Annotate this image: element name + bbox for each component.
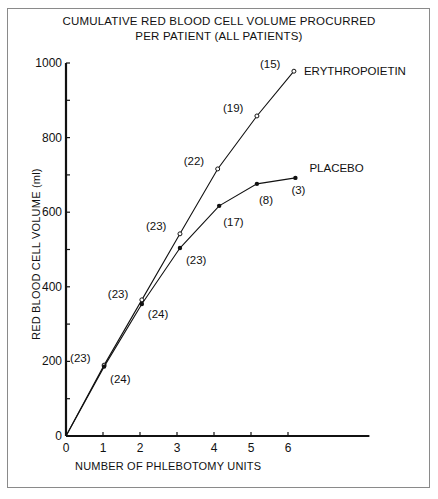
x-axis-title: NUMBER OF PHLEBOTOMY UNITS xyxy=(75,460,261,472)
data-point-marker xyxy=(292,69,296,73)
data-point-marker xyxy=(178,232,182,236)
x-tick-label: 5 xyxy=(248,441,255,455)
sample-size-annotation: (24) xyxy=(148,308,169,320)
x-tick-label: 1 xyxy=(100,441,107,455)
sample-size-annotation: (8) xyxy=(259,194,273,206)
sample-size-annotation: (3) xyxy=(291,184,305,196)
x-tick-label: 2 xyxy=(137,441,144,455)
sample-size-annotation: (23) xyxy=(146,220,167,232)
data-point-marker xyxy=(255,114,259,118)
y-tick-label: 0 xyxy=(55,429,62,443)
series-group: (23)(23)(23)(22)(19)(15)ERYTHROPOIETIN(2… xyxy=(66,58,406,436)
x-tick-label: 3 xyxy=(174,441,181,455)
y-tick-label: 200 xyxy=(42,354,62,368)
data-point-marker xyxy=(216,167,220,171)
sample-size-annotation: (15) xyxy=(260,58,281,70)
y-axis-title: RED BLOOD CELL VOLUME (ml) xyxy=(30,168,42,340)
y-tick-label: 400 xyxy=(42,280,62,294)
sample-size-annotation: (23) xyxy=(186,254,207,266)
x-tick-label: 0 xyxy=(63,441,70,455)
data-point-marker xyxy=(178,246,182,250)
sample-size-annotation: (19) xyxy=(223,102,244,114)
sample-size-annotation: (23) xyxy=(108,288,129,300)
series-label: PLACEBO xyxy=(309,162,363,174)
series-line xyxy=(66,178,295,436)
sample-size-annotation: (17) xyxy=(223,216,244,228)
data-point-marker xyxy=(140,302,144,306)
sample-size-annotation: (23) xyxy=(70,352,91,364)
data-point-marker xyxy=(102,364,106,368)
line-chart: 020040060080010000123456 (23)(23)(23)(22… xyxy=(0,0,438,499)
x-tick-label: 4 xyxy=(211,441,218,455)
series-label: ERYTHROPOIETIN xyxy=(304,65,406,77)
series-line xyxy=(66,71,294,436)
x-tick-label: 6 xyxy=(285,441,292,455)
sample-size-annotation: (22) xyxy=(184,155,205,167)
y-tick-label: 1000 xyxy=(35,56,62,70)
data-point-marker xyxy=(217,204,221,208)
y-tick-label: 600 xyxy=(42,205,62,219)
y-tick-label: 800 xyxy=(42,131,62,145)
data-point-marker xyxy=(293,176,297,180)
data-point-marker xyxy=(255,182,259,186)
sample-size-annotation: (24) xyxy=(110,373,131,385)
